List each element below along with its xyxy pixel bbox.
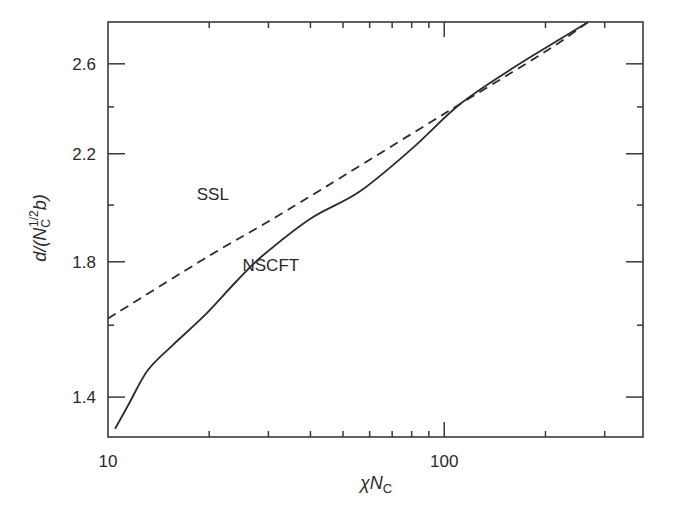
series-labels: SSLNSCFT xyxy=(197,185,299,275)
x-axis-title-main: χN xyxy=(358,473,384,493)
y-tick-label: 2.6 xyxy=(72,55,96,74)
chart: 101001.41.82.22.6 SSLNSCFT χNC d/(NC1/2b… xyxy=(0,0,677,520)
x-tick-label: 100 xyxy=(430,452,458,471)
y-axis-title-sub: C xyxy=(39,219,53,228)
axis-ticks xyxy=(108,22,643,437)
x-axis-title: χNC xyxy=(358,473,392,496)
x-tick-label: 10 xyxy=(99,452,118,471)
x-axis-title-sub: C xyxy=(383,481,392,496)
y-axis-title-sup: 1/2 xyxy=(27,210,41,227)
series-nscft-line xyxy=(115,22,588,429)
plot-frame xyxy=(108,22,643,437)
y-axis-title-pre: d/(N xyxy=(30,227,50,262)
y-axis-title-post: b) xyxy=(30,194,50,210)
y-tick-label: 1.8 xyxy=(72,253,96,272)
y-tick-label: 1.4 xyxy=(72,388,96,407)
series-lines xyxy=(108,22,588,429)
y-tick-label: 2.2 xyxy=(72,145,96,164)
label-ssl: SSL xyxy=(197,185,229,204)
y-axis-title: d/(NC1/2b) xyxy=(27,194,53,261)
label-nscft: NSCFT xyxy=(243,256,300,275)
